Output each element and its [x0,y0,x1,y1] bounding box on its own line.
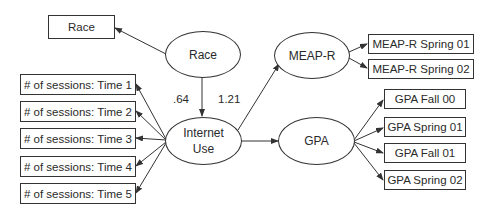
gpa-indicator-label: GPA Fall 00 [395,93,456,105]
coef-race-internet: .64 [173,93,189,105]
internet-use-ellipse: Internet Use [165,117,242,165]
meap-r-ellipse: MEAP-R [274,32,350,79]
session-box-2: # of sessions: Time 2 [20,101,136,122]
gpa-ellipse: GPA [278,117,355,165]
arrow-internet-to-session-1 [136,84,166,139]
arrow-internet-to-session-2 [136,111,166,140]
session-label: # of sessions: Time 5 [24,188,132,200]
arrow-internet-to-session-3 [136,138,166,140]
gpa-indicator-label: GPA Fall 01 [395,147,456,159]
arrow-gpa-to-fall01 [354,142,383,153]
session-label: # of sessions: Time 4 [24,161,132,173]
session-box-3: # of sessions: Time 3 [20,128,136,149]
race-indicator-box: Race [48,15,115,39]
arrow-race-to-race-indicator [115,28,166,54]
arrow-internet-to-session-5 [136,143,166,193]
session-box-1: # of sessions: Time 1 [20,74,136,95]
gpa-fall00-box: GPA Fall 00 [384,89,466,109]
gpa-label: GPA [304,133,328,149]
coef-internet-meap: 1.21 [218,93,240,105]
meap-label: MEAP-R Spring 02 [372,63,469,75]
arrow-internet-to-session-4 [136,142,166,166]
gpa-spring01-box: GPA Spring 01 [384,117,466,137]
gpa-spring02-box: GPA Spring 02 [384,170,466,190]
arrow-meap-to-spring02 [349,58,367,68]
session-box-5: # of sessions: Time 5 [20,183,136,204]
race-indicator-label: Race [68,21,95,33]
session-label: # of sessions: Time 1 [24,79,132,91]
meap-r-label: MEAP-R [289,48,336,64]
internet-use-label-line2: Use [193,141,214,157]
meap-spring01-box: MEAP-R Spring 01 [368,34,474,54]
race-latent-ellipse: Race [165,31,241,78]
session-label: # of sessions: Time 3 [24,133,132,145]
gpa-indicator-label: GPA Spring 02 [387,174,462,186]
arrow-meap-to-spring01 [349,44,367,52]
path-diagram: Race Race Internet Use MEAP-R GPA .64 1.… [0,0,485,210]
gpa-fall01-box: GPA Fall 01 [384,143,466,163]
meap-spring02-box: MEAP-R Spring 02 [368,59,474,79]
arrow-gpa-to-spring02 [354,143,383,180]
race-latent-label: Race [189,47,217,63]
arrow-internet-to-meap [238,64,279,130]
gpa-indicator-label: GPA Spring 01 [387,121,462,133]
internet-use-label-line1: Internet [183,125,224,141]
session-label: # of sessions: Time 2 [24,106,132,118]
session-box-4: # of sessions: Time 4 [20,156,136,177]
meap-label: MEAP-R Spring 01 [372,38,469,50]
